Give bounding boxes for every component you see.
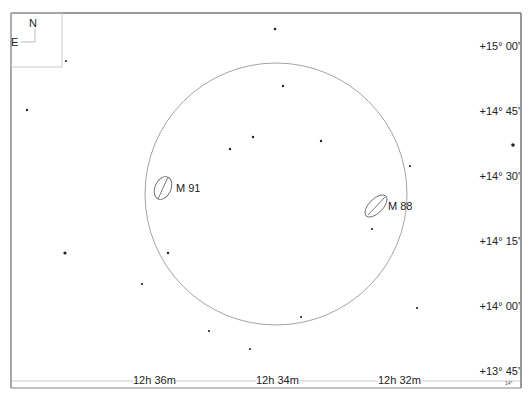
ra-label-12h36m: 12h 36m [133, 374, 176, 386]
compass-north-label: N [29, 17, 37, 29]
star-marker [208, 330, 210, 332]
star-marker [416, 307, 418, 309]
dec-label-13-45: +13° 45' [480, 365, 520, 377]
dec-small-label: 14° [505, 380, 513, 386]
m91-label[interactable]: M 91 [176, 182, 200, 194]
star-marker [252, 136, 254, 138]
star-marker [409, 165, 411, 167]
star-marker [229, 148, 231, 150]
star-marker [249, 348, 251, 350]
ra-label-12h32m: 12h 32m [378, 374, 421, 386]
star-marker [511, 143, 515, 147]
dec-label-14-15: +14° 15' [480, 235, 520, 247]
compass-east-label: E [11, 36, 18, 48]
star-marker [167, 252, 169, 254]
galaxy-m91-icon[interactable] [151, 174, 176, 203]
star-marker [26, 109, 28, 111]
ra-label-12h34m: 12h 34m [256, 374, 299, 386]
field-of-view-circle [145, 63, 407, 325]
dec-label-14-00: +14° 00' [480, 300, 520, 312]
dec-label-14-45: +14° 45' [480, 105, 520, 117]
star-chart [0, 0, 532, 402]
compass-arrows-icon [21, 28, 35, 42]
star-marker [274, 28, 277, 31]
galaxy-m88-icon[interactable] [361, 191, 391, 221]
m88-label[interactable]: M 88 [388, 200, 412, 212]
star-marker [300, 316, 302, 318]
star-marker [320, 140, 322, 142]
star-marker [282, 85, 284, 87]
dec-label-15-00: +15° 00' [480, 40, 520, 52]
dec-label-14-30: +14° 30' [480, 170, 520, 182]
stars-layer [26, 28, 515, 350]
star-marker [141, 283, 143, 285]
star-marker [63, 251, 66, 254]
star-marker [371, 228, 373, 230]
star-marker [65, 60, 67, 62]
